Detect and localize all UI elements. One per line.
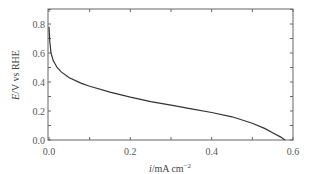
y-axis-label: E/V vs RHE (10, 50, 21, 101)
y-tick-labels: 0.00.20.40.60.8 (33, 19, 46, 146)
x-tick-labels: 0.00.20.40.6 (43, 146, 300, 157)
x-tick-label: 0.0 (43, 146, 56, 157)
y-axis-ticks (48, 10, 293, 141)
y-tick-label: 0.0 (33, 135, 46, 146)
x-tick-label: 0.2 (124, 146, 137, 157)
x-axis-ticks (49, 9, 293, 140)
x-axis-label: i/mA cm−2 (149, 162, 192, 174)
y-tick-label: 0.6 (33, 48, 46, 59)
x-tick-label: 0.4 (205, 146, 218, 157)
y-tick-label: 0.4 (33, 77, 46, 88)
x-tick-label: 0.6 (287, 146, 300, 157)
polarization-curve (49, 27, 285, 140)
y-tick-label: 0.8 (33, 19, 46, 30)
polarization-chart: 0.00.20.40.6 0.00.20.40.60.8 i/mA cm−2 E… (0, 0, 312, 174)
y-tick-label: 0.2 (33, 106, 46, 117)
plot-frame (48, 9, 293, 140)
